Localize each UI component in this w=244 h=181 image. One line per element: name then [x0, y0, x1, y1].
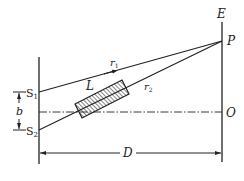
- label-s1: S1: [26, 87, 38, 101]
- ray-r1-arrow: [104, 71, 115, 74]
- label-d: D: [122, 146, 133, 160]
- label-b: b: [16, 105, 23, 118]
- label-e: E: [216, 7, 226, 21]
- label-l: L: [85, 79, 94, 93]
- label-o: O: [226, 106, 236, 120]
- label-r1: r1: [110, 57, 119, 69]
- double-slit-diagram: E P O S1 S2 b L r1 r2 D: [0, 0, 244, 181]
- label-r2: r2: [144, 81, 153, 93]
- label-p: P: [226, 34, 236, 48]
- ray-r2: [39, 41, 222, 130]
- label-s2: S2: [26, 125, 38, 139]
- ray-r1: [39, 41, 222, 92]
